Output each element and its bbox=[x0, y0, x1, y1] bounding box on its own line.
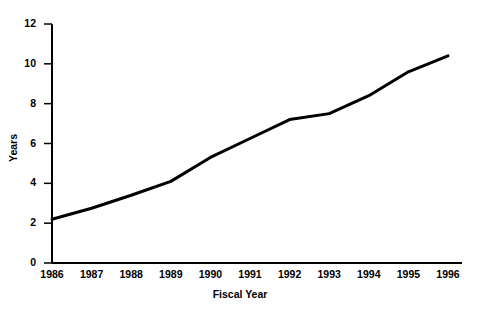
y-axis-title: Years bbox=[7, 118, 19, 178]
x-tick-label: 1987 bbox=[72, 268, 112, 280]
x-tick-label: 1990 bbox=[190, 268, 230, 280]
x-tick-label: 1996 bbox=[428, 268, 468, 280]
y-tick-label: 0 bbox=[2, 256, 36, 268]
y-tick-label: 8 bbox=[2, 97, 36, 109]
x-axis-title: Fiscal Year bbox=[0, 288, 480, 300]
y-tick-label: 4 bbox=[2, 176, 36, 188]
chart-figure: 024681012 198619871988198919901991199219… bbox=[0, 0, 480, 315]
x-tick-label: 1986 bbox=[32, 268, 72, 280]
chart-axes bbox=[52, 24, 462, 263]
x-tick-label: 1992 bbox=[270, 268, 310, 280]
y-tick-label: 10 bbox=[2, 57, 36, 69]
x-tick-label: 1988 bbox=[111, 268, 151, 280]
y-tick-label: 2 bbox=[2, 216, 36, 228]
x-tick-label: 1989 bbox=[151, 268, 191, 280]
data-series-years bbox=[52, 56, 448, 219]
x-tick-label: 1994 bbox=[349, 268, 389, 280]
x-tick-label: 1995 bbox=[388, 268, 428, 280]
x-tick-label: 1991 bbox=[230, 268, 270, 280]
y-tick-label: 12 bbox=[2, 17, 36, 29]
y-axis-tick-marks bbox=[44, 24, 52, 263]
data-line-path bbox=[52, 56, 448, 219]
x-tick-label: 1993 bbox=[309, 268, 349, 280]
